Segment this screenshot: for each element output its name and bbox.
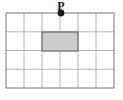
point-p-label: P <box>57 0 64 13</box>
shaded-rectangle <box>42 32 78 51</box>
grid-diagram-figure: P <box>0 0 123 100</box>
diagram-canvas: P <box>0 0 123 100</box>
